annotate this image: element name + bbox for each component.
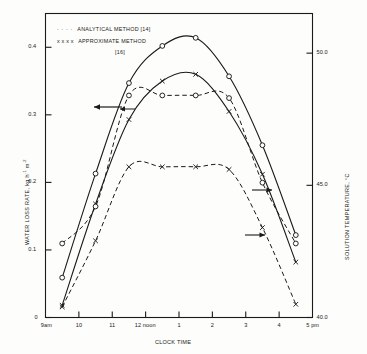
series-0 [60, 35, 298, 280]
y-axis-right-ticks [307, 53, 313, 317]
plot-frame [46, 14, 313, 318]
annotations-layer [94, 104, 272, 237]
chart-plot-area [0, 0, 367, 354]
x-tick-12-noon: 12 noon [135, 322, 156, 328]
legend-label-approximate: APPROXIMATE METHOD [78, 38, 146, 44]
y-left-tick-0.1: 0.1 [28, 246, 36, 252]
x-tick-9am: 9am [41, 322, 52, 328]
right-axis-arrow-lower [245, 232, 265, 237]
y-right-tick-45.0: 45.0 [317, 181, 328, 187]
x-tick-11: 11 [109, 322, 115, 328]
x-tick-10: 10 [76, 322, 82, 328]
x-tick-4: 4 [278, 322, 281, 328]
x-axis-ticks [79, 312, 279, 318]
series-2 [60, 87, 298, 246]
x-tick-3: 3 [244, 322, 247, 328]
x-tick-5-pm: 5 pm [306, 322, 319, 328]
left-axis-arrow-lower [120, 107, 135, 112]
figure: WATER LOSS RATE, kg h-1 m-2 SOLUTION TEM… [0, 0, 367, 354]
y-left-tick-0.3: 0.3 [28, 111, 36, 117]
legend-row-analytical: · · · · ANALYTICAL METHOD [14] [57, 22, 151, 34]
x-tick-2: 2 [211, 322, 214, 328]
legend-marker-dotted: · · · · [57, 26, 73, 32]
y-left-tick-0.2: 0.2 [28, 178, 36, 184]
legend-row-approximate: x x x x APPROXIMATE METHOD [57, 34, 151, 46]
legend-label-analytical: ANALYTICAL METHOD [14] [77, 26, 150, 32]
y-axis-left-ticks [46, 47, 52, 317]
x-tick-1: 1 [177, 322, 180, 328]
y-left-tick-0: 0 [34, 314, 37, 320]
y-right-tick-40.0: 40.0 [317, 314, 328, 320]
chart-legend: · · · · ANALYTICAL METHOD [14] x x x x A… [57, 22, 151, 57]
y-right-tick-50.0: 50.0 [317, 49, 328, 55]
data-series-layer [60, 35, 298, 309]
y-left-tick-0.4: 0.4 [28, 43, 36, 49]
legend-marker-x: x x x x [57, 38, 74, 44]
legend-row-reference: [16] [57, 45, 151, 57]
right-axis-arrow-upper [252, 187, 272, 192]
legend-label-reference: [16] [115, 49, 125, 55]
